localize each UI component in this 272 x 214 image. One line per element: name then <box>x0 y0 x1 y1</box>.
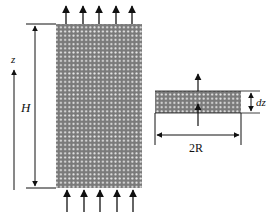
porous-column-diagram: H z dz 2R <box>0 0 272 214</box>
dz-label: dz <box>256 96 267 108</box>
differential-slice <box>155 74 260 126</box>
flow-in-arrows <box>67 190 133 212</box>
height-label: H <box>20 100 31 115</box>
porous-column <box>56 24 142 188</box>
diameter-label-text: 2R <box>189 141 203 155</box>
z-axis-label: z <box>10 53 16 65</box>
diameter-label: 2R <box>189 141 203 155</box>
height-dimension <box>26 24 56 188</box>
flow-out-arrows <box>66 6 132 24</box>
